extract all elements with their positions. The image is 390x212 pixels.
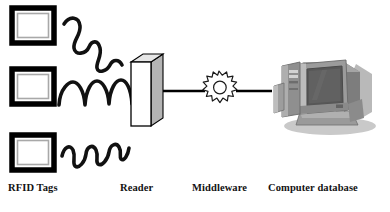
tower-vent [289, 88, 298, 90]
tower-drive-slot [289, 81, 298, 83]
radio-wave-1 [64, 18, 122, 71]
diagram-canvas [0, 0, 390, 212]
rfid-tag-2 [12, 69, 54, 104]
rfid-system-diagram: RFID Tags Reader Middleware Computer dat… [0, 0, 390, 212]
computer-database-graphic [272, 56, 384, 135]
label-middleware: Middleware [192, 182, 247, 194]
radio-wave-2 [59, 80, 132, 105]
tower-drive-bay-2 [289, 75, 298, 78]
radio-wave-3 [62, 145, 129, 167]
rfid-tag-1 [12, 8, 54, 43]
middleware-gear [203, 71, 237, 103]
label-computer-database: Computer database [268, 182, 358, 194]
gear-hub [214, 81, 227, 94]
computer-speaker-highlight [274, 85, 278, 113]
label-reader: Reader [120, 182, 153, 194]
reader-side-face [151, 54, 163, 126]
tower-drive-bay-1 [289, 70, 298, 73]
monitor-power-button [336, 105, 343, 109]
reader-box [131, 54, 163, 126]
label-rfid-tags: RFID Tags [8, 182, 58, 194]
reader-front-face [131, 62, 151, 126]
rfid-tag-3 [12, 135, 54, 170]
